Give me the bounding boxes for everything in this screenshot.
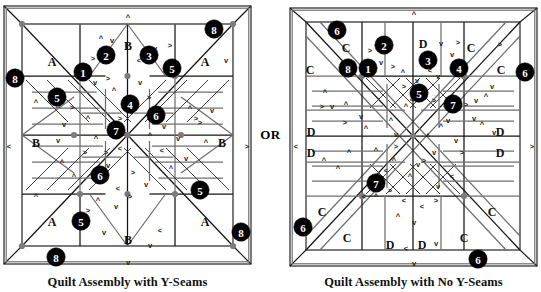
step-badge-8[interactable]: 8 [205,20,223,38]
figure-root: >^vv><>v^v><>^>^v^>v^^><^v^v>v<v^>v<>v^>… [0,0,541,292]
step-badge-7[interactable]: 7 [444,95,462,113]
press-direction-mark: ^ [392,156,397,165]
seam-intersection-dot [172,191,178,197]
step-badge-6[interactable]: 6 [469,250,487,268]
press-direction-mark: v [144,180,149,189]
block-diagonal [128,135,234,246]
press-direction-mark: v [102,228,107,237]
press-direction-mark: > [106,74,111,83]
step-badge-7[interactable]: 7 [367,174,385,192]
press-direction-mark: ^ [389,116,394,125]
press-direction-mark: v [412,218,417,227]
press-direction-mark: v [450,50,455,59]
step-badge-3[interactable]: 3 [419,51,437,69]
patch-label-C: C [467,41,476,55]
patch-label-D: D [418,238,427,252]
press-direction-mark: < [404,244,409,253]
press-direction-mark: < [294,142,299,151]
step-badge-1[interactable]: 1 [74,63,92,81]
hst-seam [430,164,460,194]
press-direction-mark: > [434,196,439,205]
press-direction-mark: v [148,241,153,250]
press-direction-mark: ^ [408,172,413,181]
or-connector: OR [255,0,286,292]
press-direction-mark: > [432,96,437,105]
step-badge-8[interactable]: 8 [232,223,250,241]
press-direction-mark: < [160,146,165,155]
badge-number: 7 [450,99,456,111]
seam-intersection-dot [124,132,130,138]
step-badge-3[interactable]: 3 [140,46,158,64]
press-direction-mark: < [116,184,121,193]
seam-intersection-dot [461,193,467,199]
press-direction-mark: v [439,39,444,48]
step-badge-5[interactable]: 5 [163,59,181,77]
step-badge-6[interactable]: 6 [294,218,312,236]
step-badge-8[interactable]: 8 [6,69,24,87]
press-direction-mark: > [343,118,348,127]
panel-no-y-seams: >v>^><vv><v>^^v^>v^>^v>^^^^<^><^><^v>v^v… [286,0,541,292]
step-badges: 666681234577 [294,21,534,268]
badge-number: 6 [97,170,103,182]
step-badge-5[interactable]: 5 [72,212,90,230]
press-direction-mark: > [91,54,96,63]
press-direction-mark: > [147,93,152,102]
step-badge-6[interactable]: 6 [91,166,109,184]
step-badge-6[interactable]: 6 [516,63,534,81]
press-direction-mark: ^ [374,146,379,155]
press-mark-group: >^vv><>v^v><>^>^v^>v^^><^v^v>v<v^>v<>v^>… [34,34,229,250]
press-direction-mark: v [93,78,98,87]
press-direction-mark: ^ [404,102,409,111]
press-direction-mark: ^ [412,10,417,19]
patch-label-A: A [201,215,210,229]
step-badge-5[interactable]: 5 [48,88,66,106]
step-badge-6[interactable]: 6 [147,106,165,124]
quilt-diagram-y-seams: >^vv><>v^v><>^>^v^>v^^><^v^v>v<v^>v<>v^>… [0,0,255,270]
badge-number: 4 [456,63,462,75]
step-badge-2[interactable]: 2 [97,46,115,64]
patch-label-A: A [48,215,57,229]
badge-number: 7 [113,125,119,137]
press-direction-mark: > [460,148,465,157]
press-direction-mark: ^ [364,124,369,133]
press-direction-mark: v [106,161,111,170]
press-direction-mark: ^ [126,13,131,22]
press-direction-mark: ^ [336,164,341,173]
step-badge-2[interactable]: 2 [375,36,393,54]
step-badge-8[interactable]: 8 [339,59,357,77]
press-direction-mark: ^ [99,34,104,43]
step-badge-1[interactable]: 1 [359,59,377,77]
step-badge-4[interactable]: 4 [121,95,139,113]
badge-number: 8 [238,227,244,239]
badge-number: 5 [416,88,422,100]
press-direction-mark: v [138,78,143,87]
press-direction-mark: ^ [484,92,489,101]
press-direction-mark: ^ [94,134,99,143]
step-badge-6[interactable]: 6 [328,21,346,39]
step-badge-4[interactable]: 4 [450,59,468,77]
step-badge-8[interactable]: 8 [47,248,65,266]
press-direction-mark: ^ [34,98,39,107]
seam-intersection-dot [124,73,130,79]
press-direction-mark: > [198,118,203,127]
press-direction-mark: v [446,116,451,125]
press-direction-mark: > [368,46,373,55]
step-badge-5[interactable]: 5 [410,84,428,102]
badge-number: 2 [103,50,109,62]
step-badge-7[interactable]: 7 [107,121,125,139]
hst-seam [26,148,68,190]
press-direction-mark: ^ [188,104,193,113]
badge-number: 1 [80,67,86,79]
step-badge-5[interactable]: 5 [191,181,209,199]
press-direction-mark: > [530,142,535,151]
press-direction-mark: v [210,106,215,115]
patch-label-C: C [318,205,327,219]
press-direction-mark: ^ [34,192,39,201]
or-label: OR [260,127,281,143]
press-direction-mark: > [131,168,136,177]
press-direction-mark: ^ [374,192,379,201]
press-direction-mark: ^ [396,212,401,221]
press-direction-mark: v [436,182,441,191]
patch-label-C: C [488,205,497,219]
patch-label-A: A [201,55,210,69]
